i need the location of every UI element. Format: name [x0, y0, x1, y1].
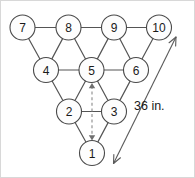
pin-7[interactable]: 7 [10, 15, 35, 40]
pin-10-label: 10 [152, 21, 166, 35]
pin-5[interactable]: 5 [79, 58, 104, 83]
pin-arrangement-diagram: 7891045623136 in. [0, 0, 195, 178]
edge-2-1 [75, 122, 86, 143]
pin-3-label: 3 [111, 105, 118, 119]
edge-5-3 [97, 81, 108, 101]
pin-2[interactable]: 2 [57, 99, 82, 124]
pin-8[interactable]: 8 [56, 15, 81, 40]
pin-2-label: 2 [66, 105, 73, 119]
dimension-group: 36 in. [114, 37, 177, 164]
edge-6-3 [120, 81, 131, 101]
pin-9-label: 9 [111, 21, 118, 35]
edge-5-2 [75, 81, 86, 101]
pin-4-label: 4 [43, 64, 50, 78]
edge-10-6 [142, 38, 154, 59]
dimension-label: 36 in. [134, 99, 165, 113]
edge-9-5 [97, 38, 108, 59]
pin-6[interactable]: 6 [124, 58, 149, 83]
edge-8-4 [52, 38, 63, 59]
pin-1-label: 1 [89, 147, 96, 161]
edge-9-6 [120, 38, 131, 59]
pin-3[interactable]: 3 [102, 99, 127, 124]
pin-5-label: 5 [88, 64, 95, 78]
dashed-arrowhead-up [89, 83, 95, 88]
pin-4[interactable]: 4 [34, 58, 59, 83]
pin-9[interactable]: 9 [102, 15, 127, 40]
pin-7-label: 7 [19, 21, 26, 35]
dashed-arrowhead-down [89, 135, 95, 140]
edge-4-2 [52, 81, 63, 102]
pin-6-label: 6 [133, 64, 140, 78]
pin-10[interactable]: 10 [147, 15, 172, 40]
pin-8-label: 8 [65, 21, 72, 35]
edge-8-5 [74, 38, 86, 59]
node-group: 78910456231 [10, 15, 172, 166]
edge-7-4 [28, 38, 40, 60]
edge-3-1 [98, 122, 109, 142]
pin-1[interactable]: 1 [80, 141, 105, 166]
diagram-canvas: 7891045623136 in. [1, 1, 195, 178]
